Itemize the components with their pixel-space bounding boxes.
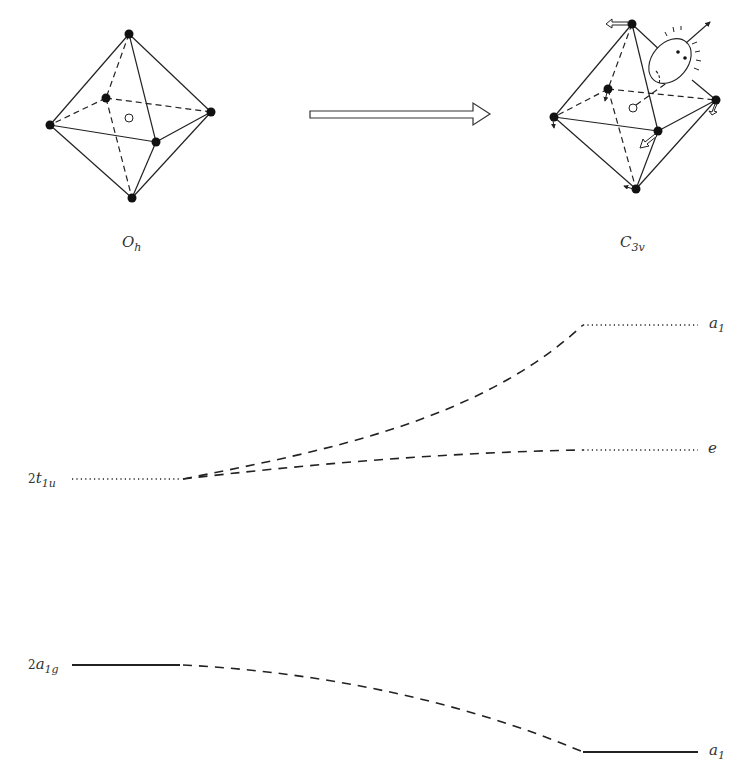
label-c3v-sub: 3v	[631, 241, 644, 254]
vertex-top	[628, 20, 637, 29]
center-metal-marker	[125, 114, 133, 122]
label-oh: Oh	[122, 235, 141, 250]
label-2t1u: 2t1u	[28, 471, 56, 486]
correlation-2t1u-e	[183, 450, 583, 479]
octahedron-c3v	[550, 19, 721, 194]
vertex-back	[604, 85, 613, 94]
label-oh-main: O	[122, 233, 134, 251]
vertex-bottom	[128, 194, 137, 203]
center-metal-marker	[629, 104, 637, 112]
label-oh-sub: h	[134, 241, 141, 254]
label-a1-lower: a1	[709, 743, 725, 758]
vertex-back	[102, 94, 111, 103]
energy-levels	[72, 325, 698, 752]
diagram-canvas	[0, 0, 754, 783]
vertex-left	[550, 113, 559, 122]
correlation-2t1u-a1	[183, 325, 583, 479]
correlation-lines	[183, 325, 583, 752]
label-c3v: C3v	[620, 235, 645, 250]
correlation-2a1g-a1	[183, 665, 583, 752]
vertex-top	[125, 30, 134, 39]
vertex-right	[207, 108, 216, 117]
vertex-left	[46, 121, 55, 130]
transform-arrow-icon	[310, 103, 490, 125]
observer-face-icon	[640, 22, 710, 92]
label-a1-upper: a1	[709, 316, 725, 331]
label-c3v-main: C	[620, 233, 631, 251]
vertex-right	[712, 96, 721, 105]
label-e: e	[708, 441, 717, 456]
vertex-front	[152, 138, 161, 147]
octahedron-oh	[46, 30, 216, 203]
label-2a1g: 2a1g	[28, 657, 59, 672]
